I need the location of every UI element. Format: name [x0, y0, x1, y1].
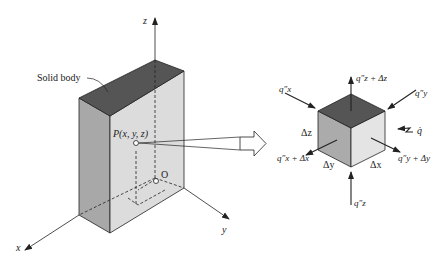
zoom-arrow-icon	[240, 131, 266, 156]
qy-in-label: q″y	[415, 88, 427, 98]
qx-in-arrow	[285, 93, 315, 108]
origin-label: O	[161, 169, 168, 180]
solid-body-left-face	[79, 98, 110, 233]
x-axis	[25, 215, 79, 250]
heat-conduction-diagram: z x y Solid body P(x, y, z) O q″x q″z + …	[0, 0, 443, 270]
qz-out-label: q″z + Δz	[356, 73, 388, 83]
origin-marker	[154, 179, 159, 184]
qy-out-label: q″y + Δy	[398, 153, 430, 163]
qx-in-label: q″x	[279, 84, 291, 94]
qx-out-label: q″x + Δx	[277, 153, 309, 163]
point-p-label: P(x, y, z)	[112, 128, 149, 140]
dz-label: Δz	[301, 127, 312, 138]
point-p-marker	[134, 141, 139, 146]
generation-label: q̇	[417, 125, 422, 136]
y-axis-label: y	[221, 224, 227, 235]
y-axis	[184, 188, 229, 219]
generation-arrow-icon	[398, 128, 413, 132]
diagram-canvas: z x y Solid body P(x, y, z) O q″x q″z + …	[0, 0, 443, 270]
dx-label: Δx	[370, 159, 381, 170]
z-axis-label: z	[142, 15, 147, 26]
x-axis-label: x	[15, 242, 21, 253]
qz-in-label: q″z	[354, 198, 366, 208]
qy-in-arrow	[388, 90, 416, 109]
dy-label: Δy	[323, 159, 334, 170]
solid-body-label: Solid body	[37, 72, 81, 83]
